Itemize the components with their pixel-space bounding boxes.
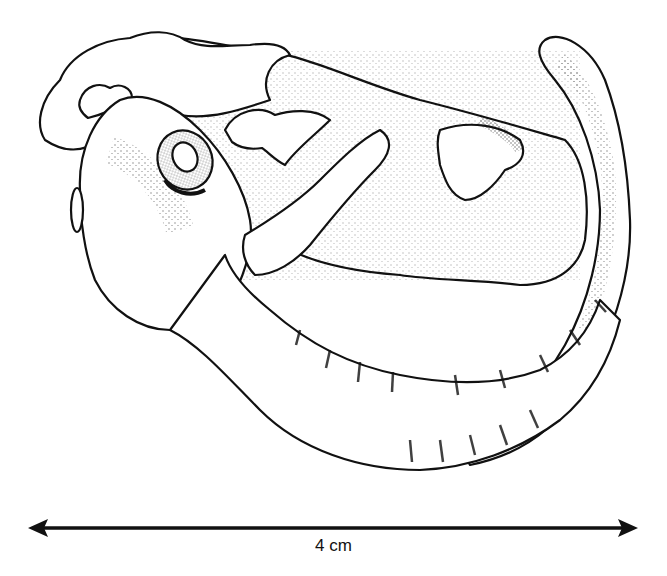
embryo-figure: 4 cm — [0, 0, 667, 576]
nostril-icon — [71, 188, 83, 232]
scale-bar — [28, 519, 638, 537]
lower-trunk — [170, 255, 620, 470]
embryo-drawing — [0, 0, 667, 576]
scale-bar-label: 4 cm — [0, 536, 667, 556]
